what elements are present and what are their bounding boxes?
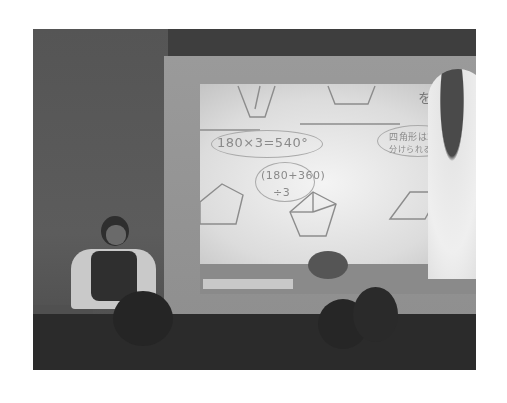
audience-silhouettes: [33, 314, 476, 370]
seated-teacher-face: [106, 225, 126, 245]
equation-divide: ÷3: [273, 186, 290, 199]
note-line-2: 分けられる: [389, 143, 432, 154]
classroom-photo: 180×3=540° (180+360) ÷3 四角形は2つ 分けられる を求め…: [33, 29, 476, 370]
ledge-highlight: [203, 279, 293, 289]
equation-sum-expression: (180+360): [261, 169, 325, 182]
standing-presenter: [428, 69, 476, 279]
pentagon-shape-left: [200, 184, 243, 224]
student-at-board-head: [308, 251, 348, 279]
wall-top: [168, 29, 476, 59]
audience-head-1: [113, 291, 173, 346]
equation-angle-sum: 180×3=540°: [217, 135, 308, 150]
audience-head-3: [353, 287, 398, 342]
trapezoid-shape-2: [328, 86, 375, 104]
